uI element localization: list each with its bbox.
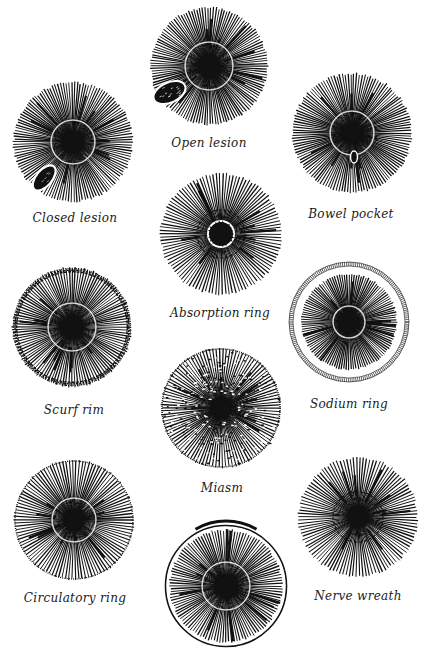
iris-miasm-drawing	[153, 340, 289, 476]
label-scurf-rim: Scurf rim	[44, 403, 104, 417]
iris-nerve-wreath-drawing	[290, 449, 426, 585]
iris-sodium-ring-drawing	[281, 254, 417, 390]
label-closed-lesion: Closed lesion	[33, 211, 118, 225]
iris-open-lesion-drawing	[142, 0, 276, 133]
iridology-signs-figure: Open lesion Closed lesion Bowel pocket A…	[0, 0, 428, 657]
label-miasm: Miasm	[201, 481, 243, 495]
iris-closed-lesion-drawing	[5, 74, 141, 210]
iris-bowel-pocket-drawing	[284, 65, 420, 201]
iris-scurf-rim-drawing	[4, 259, 140, 395]
label-circulatory-ring: Circulatory ring	[24, 591, 126, 605]
label-sodium-ring: Sodium ring	[310, 397, 388, 411]
label-bowel-pocket: Bowel pocket	[308, 207, 394, 221]
label-absorption-ring: Absorption ring	[170, 306, 270, 320]
label-nerve-wreath: Nerve wreath	[314, 589, 401, 603]
iris-circulatory-ring-drawing	[6, 452, 142, 588]
iris-unlabeled-arcus-drawing	[157, 517, 295, 655]
iris-absorption-ring-drawing	[152, 165, 290, 303]
label-open-lesion: Open lesion	[171, 136, 246, 150]
